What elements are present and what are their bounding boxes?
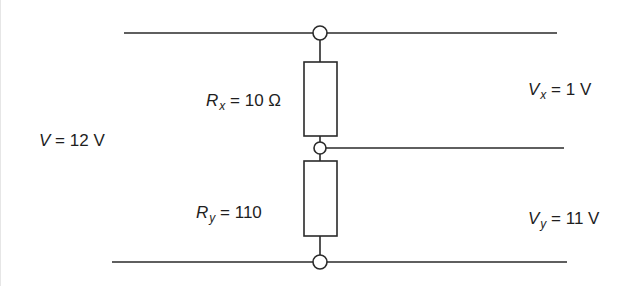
ry-equals: = xyxy=(220,203,230,222)
supply-value: 12 V xyxy=(70,131,105,150)
supply-symbol: V xyxy=(39,131,50,150)
rx-subscript: x xyxy=(219,99,225,113)
resistor-rx xyxy=(304,62,337,136)
vx-value: 1 V xyxy=(566,80,592,99)
voltage-y-label: Vy = 11 V xyxy=(528,210,599,227)
vy-equals: = xyxy=(551,209,561,228)
supply-voltage-label: V = 12 V xyxy=(39,132,105,149)
resistor-rx-label: Rx = 10 Ω xyxy=(206,92,281,109)
rx-equals: = xyxy=(230,91,240,110)
vx-symbol: V xyxy=(528,80,539,99)
vy-symbol: V xyxy=(528,209,539,228)
supply-equals: = xyxy=(55,131,65,150)
middle-node xyxy=(314,142,326,154)
rx-value: 10 Ω xyxy=(245,91,281,110)
vy-value: 11 V xyxy=(566,209,600,228)
top-node xyxy=(313,26,327,40)
rx-symbol: R xyxy=(206,91,218,110)
bottom-node xyxy=(313,255,327,269)
vy-subscript: y xyxy=(540,217,546,231)
resistor-ry xyxy=(304,161,337,236)
ry-subscript: y xyxy=(209,211,215,225)
voltage-x-label: Vx = 1 V xyxy=(528,81,591,98)
vx-subscript: x xyxy=(540,88,546,102)
ry-symbol: R xyxy=(196,203,208,222)
ry-value: 110 xyxy=(235,203,262,222)
vx-equals: = xyxy=(551,80,561,99)
resistor-ry-label: Ry = 110 xyxy=(196,204,262,221)
